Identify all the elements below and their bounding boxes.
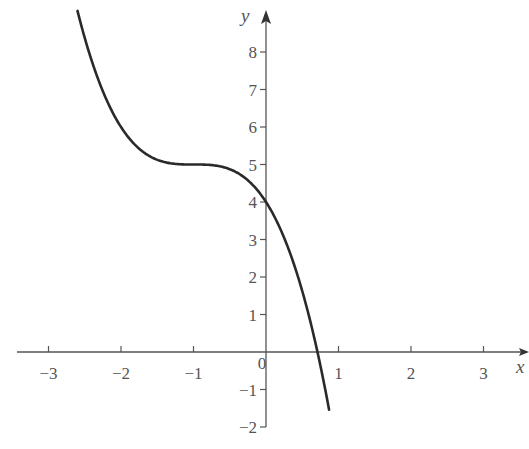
y-tick-label: 5 — [249, 156, 258, 175]
x-tick-label: −3 — [39, 364, 57, 383]
function-graph: −3−2−10123−2−112345678 x y — [0, 0, 529, 449]
x-tick-label: 3 — [479, 364, 488, 383]
y-tick-label: 8 — [249, 43, 258, 62]
x-tick-label: 2 — [407, 364, 416, 383]
x-tick-label: 1 — [334, 364, 343, 383]
axes — [17, 10, 529, 427]
y-tick-label: −2 — [239, 418, 257, 437]
y-tick-label: 4 — [249, 193, 258, 212]
y-tick-label: 1 — [249, 306, 258, 325]
function-curve — [78, 11, 330, 410]
x-axis-label: x — [515, 356, 525, 377]
y-tick-label: 6 — [249, 118, 258, 137]
y-tick-label: 7 — [249, 81, 258, 100]
x-tick-label: −1 — [184, 364, 202, 383]
y-tick-label: 3 — [249, 231, 258, 250]
origin-label: 0 — [258, 354, 267, 373]
y-tick-label: −1 — [239, 381, 257, 400]
y-axis-label: y — [239, 5, 250, 26]
x-tick-label: −2 — [112, 364, 130, 383]
y-tick-label: 2 — [249, 268, 258, 287]
